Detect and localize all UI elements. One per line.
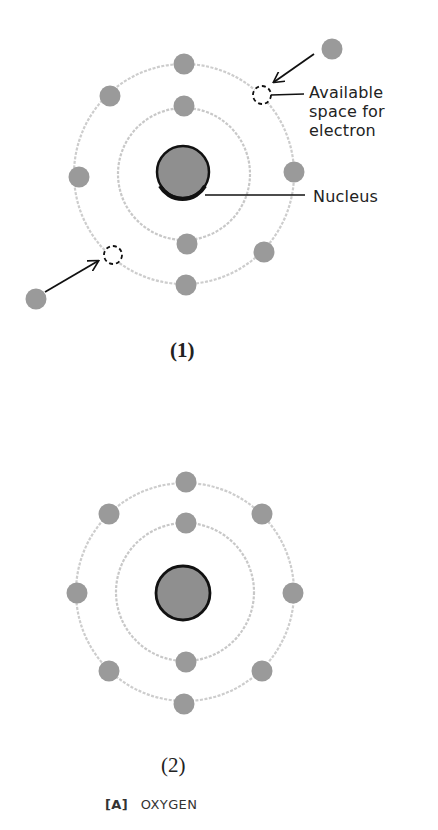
electron (100, 86, 121, 107)
nucleus (156, 566, 210, 620)
electron (176, 275, 197, 296)
electron (254, 242, 275, 263)
electron (99, 504, 120, 525)
figure-footer: [A] OXYGEN (105, 797, 197, 812)
figure-2-caption: (2) (161, 753, 186, 778)
electron (284, 162, 305, 183)
label-line: electron (309, 121, 385, 140)
electron (252, 661, 273, 682)
available-space-marker (104, 246, 122, 264)
electron (283, 583, 304, 604)
element-name: OXYGEN (141, 797, 198, 812)
figure-1-caption: (1) (170, 338, 195, 363)
electron (174, 694, 195, 715)
arrow-icon (274, 54, 314, 82)
leader-line (271, 94, 304, 95)
available-space-marker (253, 86, 271, 104)
electron (174, 54, 195, 75)
electron (99, 661, 120, 682)
label-line: Available (309, 83, 385, 102)
electron (176, 472, 197, 493)
electron (176, 513, 197, 534)
atom-diagram-1 (26, 39, 343, 310)
electron (174, 96, 195, 117)
electron (177, 234, 198, 255)
figure-tag: [A] (105, 797, 128, 812)
arrow-icon (45, 261, 98, 292)
label-line: space for (309, 102, 385, 121)
electron (69, 167, 90, 188)
electron (67, 583, 88, 604)
atom-diagram-2 (67, 472, 304, 715)
incoming-electron (322, 39, 343, 60)
electron (252, 504, 273, 525)
nucleus-label: Nucleus (313, 187, 378, 206)
incoming-electron (26, 289, 47, 310)
electron (176, 652, 197, 673)
available-space-label: Available space for electron (309, 83, 385, 140)
